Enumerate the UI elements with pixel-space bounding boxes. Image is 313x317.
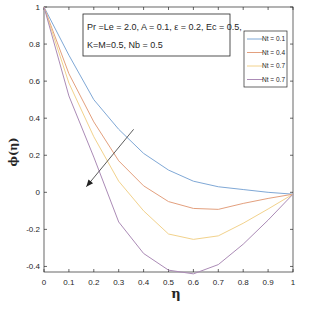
legend: Nt = 0.1Nt = 0.4Nt = 0.7Nt = 0.7 (244, 31, 287, 87)
y-tick-label: 0.4 (29, 114, 41, 123)
annotation-line-2: K=M=0.5, Nb = 0.5 (87, 40, 163, 50)
plot-area: 00.10.20.30.40.50.60.70.80.91 -0.4-0.200… (26, 3, 296, 287)
legend-label: Nt = 0.4 (262, 49, 285, 56)
x-tick-label: 0.7 (213, 278, 225, 287)
x-tick-label: 0.9 (263, 278, 275, 287)
x-tick-label: 0.3 (113, 278, 125, 287)
y-tick-label: 0 (36, 188, 41, 197)
arrow-head-icon (86, 179, 93, 186)
x-tick-label: 1 (291, 278, 296, 287)
trend-arrow (86, 129, 133, 186)
x-tick-label: 0.8 (238, 278, 250, 287)
x-tick-label: 0.1 (63, 278, 75, 287)
y-tick-label: -0.4 (26, 262, 40, 271)
y-tick-label: 0.2 (29, 151, 41, 160)
legend-label: Nt = 0.7 (262, 62, 285, 69)
y-tick-label: -0.2 (26, 225, 40, 234)
arrow-line (86, 129, 133, 186)
parameter-annotation: Pr =Le = 2.0, A = 0.1, ε = 0.2, Ec = 0.5… (83, 14, 242, 56)
x-tick-label: 0 (42, 278, 47, 287)
x-tick-label: 0.6 (188, 278, 200, 287)
legend-label: Nt = 0.1 (262, 35, 285, 42)
annotation-line-1: Pr =Le = 2.0, A = 0.1, ε = 0.2, Ec = 0.5… (87, 22, 242, 32)
y-tick-label: 0.6 (29, 77, 41, 86)
x-axis-label: η (171, 286, 180, 301)
x-tick-label: 0.4 (138, 278, 150, 287)
chart: 00.10.20.30.40.50.60.70.80.91 -0.4-0.200… (0, 0, 313, 317)
x-tick-label: 0.2 (88, 278, 100, 287)
y-axis-label: ϕ(η) (7, 138, 20, 167)
y-tick-label: 1 (36, 3, 41, 12)
y-tick-label: 0.8 (29, 40, 41, 49)
legend-label: Nt = 0.7 (262, 76, 285, 83)
